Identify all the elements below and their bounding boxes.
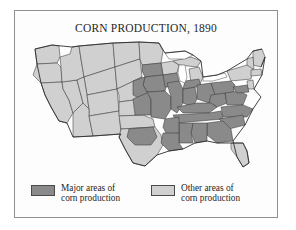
legend-label-other-line2: corn production [181,193,240,203]
legend-label-other: Other areas of corn production [181,183,240,203]
state-minnesota-south [142,63,163,77]
state-new-jersey [247,80,254,89]
state-virginia [225,91,247,105]
state-north-carolina [221,105,253,117]
state-kentucky [177,103,217,113]
legend-swatch-other [151,185,175,196]
state-massachusetts [251,69,262,76]
figure-container: CORN PRODUCTION, 1890 [0,0,296,230]
state-arkansas [163,117,179,135]
state-mississippi [179,123,193,143]
map-legend: Major areas of corn production Other are… [15,183,279,217]
lake-michigan [178,65,187,83]
state-florida [231,143,249,167]
legend-label-major-line1: Major areas of [61,183,120,193]
legend-entry-other: Other areas of corn production [151,183,240,203]
map-title: CORN PRODUCTION, 1890 [15,22,277,34]
legend-label-major-line2: corn production [61,193,120,203]
state-maine [253,49,265,67]
lake-erie-ontario [203,73,227,81]
state-alabama [191,123,207,143]
figure-frame: CORN PRODUCTION, 1890 [14,10,278,218]
legend-entry-major: Major areas of corn production [31,183,120,203]
state-minnesota-north [139,42,163,65]
us-corn-production-map [21,37,273,173]
map-svg [21,37,273,173]
legend-swatch-major [31,185,55,196]
legend-label-major: Major areas of corn production [61,183,120,203]
state-new-york [227,65,253,81]
legend-label-other-line1: Other areas of [181,183,240,193]
state-oklahoma [119,115,155,129]
